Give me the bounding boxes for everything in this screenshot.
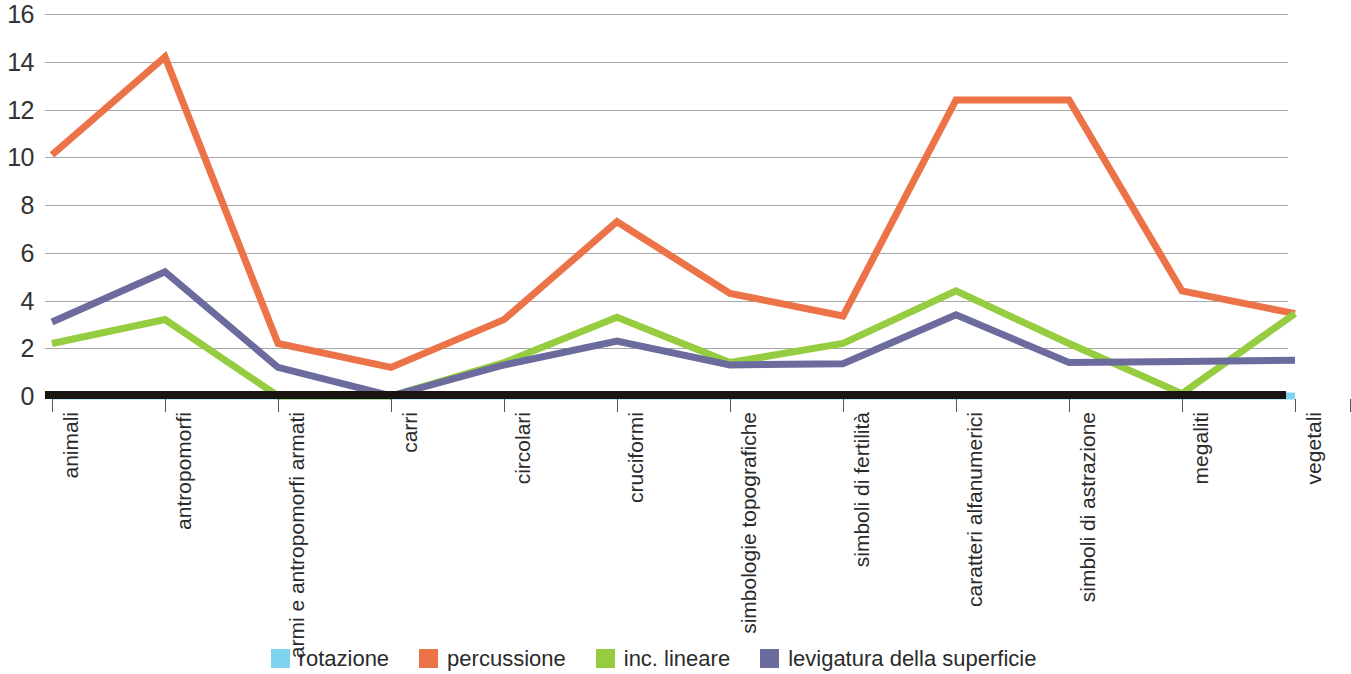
x-axis-tick [956,399,957,412]
x-axis-tick [1182,399,1183,412]
series-line [52,272,1295,396]
legend-color-swatch [419,649,438,668]
legend-color-swatch [596,649,615,668]
y-tick-label: 12 [7,97,34,122]
x-axis-tick [1295,399,1296,412]
x-axis-label-text: caratteri alfanumerici [964,412,985,607]
x-axis-label-text: simboli di fertilità [851,412,872,567]
x-axis-label-text: simboli di astrazione [1077,412,1098,602]
x-axis-tick [165,399,166,412]
y-tick-label: 10 [7,145,34,170]
x-axis-label-text: megaliti [1190,412,1211,484]
x-axis-label-text: armi e antropomorfi armati [286,412,307,658]
x-axis-label-text: carri [399,412,420,453]
x-axis-label: megaliti [1190,412,1211,484]
series-lines [45,0,1288,400]
x-axis-labels: animaliantropomorfiarmi e antropomorfi a… [45,412,1286,637]
legend-item[interactable]: percussione [419,648,566,670]
x-axis-label-text: simbologie topografiche [738,412,759,634]
series-line [52,57,1295,367]
x-axis-ticks [45,399,1286,413]
legend-label: rotazione [299,648,390,670]
x-axis-tick [843,399,844,412]
legend-color-swatch [760,649,779,668]
x-axis-label: carri [399,412,420,453]
x-axis-tick [504,399,505,412]
x-axis-label: antropomorfi [173,412,194,530]
chart-legend: rotazionepercussioneinc. linearelevigatu… [0,643,1307,674]
y-tick-label: 4 [21,288,34,313]
y-tick-label: 2 [21,336,34,361]
y-tick-label: 0 [21,384,34,409]
series-line [52,291,1295,396]
x-axis-line [45,391,1286,399]
x-axis-label-text: cruciformi [625,412,646,503]
y-tick-label: 8 [21,193,34,218]
legend-color-swatch [271,649,290,668]
legend-label: percussione [447,648,566,670]
x-axis-tick [52,399,53,412]
x-axis-label: simboli di astrazione [1077,412,1098,602]
x-axis-tick [730,399,731,412]
x-axis-label: armi e antropomorfi armati [286,412,307,658]
legend-label: inc. lineare [624,648,730,670]
x-axis-label-text: animali [60,412,81,479]
x-axis-label-text: antropomorfi [173,412,194,530]
x-axis-label: simboli di fertilità [851,412,872,567]
plot-area [45,0,1288,400]
x-axis-tick [617,399,618,412]
y-tick-label: 16 [7,2,34,27]
x-axis-label: circolari [512,412,533,484]
y-axis: 1614121086420 [0,0,44,410]
legend-label: levigatura della superficie [788,648,1036,670]
x-axis-label: vegetali [1303,412,1324,484]
legend-item[interactable]: levigatura della superficie [760,648,1036,670]
x-axis-tick [391,399,392,412]
y-tick-label: 14 [7,49,34,74]
x-axis-label: cruciformi [625,412,646,503]
x-axis-label-text: circolari [512,412,533,484]
x-axis-tick [278,399,279,412]
x-axis-tick [1069,399,1070,412]
legend-item[interactable]: rotazione [271,648,390,670]
x-axis-label-text: vegetali [1303,412,1324,484]
y-tick-label: 6 [21,240,34,265]
x-axis-label: caratteri alfanumerici [964,412,985,607]
x-axis-label: animali [60,412,81,479]
legend-item[interactable]: inc. lineare [596,648,730,670]
x-axis-label: simbologie topografiche [738,412,759,634]
